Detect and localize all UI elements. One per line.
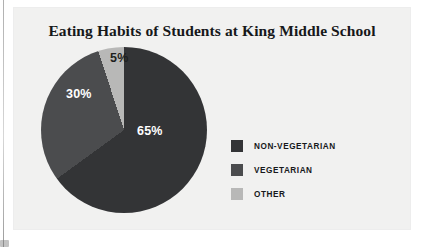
legend-label-non-vegetarian: NON-VEGETARIAN — [254, 142, 336, 151]
pie-chart: 65% 30% 5% — [41, 47, 207, 213]
legend-swatch-icon-other — [231, 188, 243, 200]
legend-item-vegetarian: VEGETARIAN — [231, 158, 396, 182]
pie-slice-label-vegetarian: 30% — [66, 87, 92, 101]
legend-swatch-icon-non-vegetarian — [231, 140, 243, 152]
legend-item-non-vegetarian: NON-VEGETARIAN — [231, 134, 396, 158]
page-root: Eating Habits of Students at King Middle… — [0, 0, 426, 247]
pie-disc — [41, 47, 207, 213]
pie-slice-label-other: 5% — [110, 51, 128, 65]
legend-label-vegetarian: VEGETARIAN — [254, 166, 313, 175]
pie-slice-label-non-vegetarian: 65% — [137, 124, 163, 138]
page-edge-rule — [3, 0, 4, 247]
page-corner-smudge — [0, 240, 9, 247]
chart-legend: NON-VEGETARIAN VEGETARIAN OTHER — [231, 134, 396, 206]
chart-title: Eating Habits of Students at King Middle… — [14, 22, 410, 40]
legend-label-other: OTHER — [254, 190, 285, 199]
legend-item-other: OTHER — [231, 182, 396, 206]
chart-panel: Eating Habits of Students at King Middle… — [14, 8, 410, 229]
legend-swatch-icon-vegetarian — [231, 164, 243, 176]
